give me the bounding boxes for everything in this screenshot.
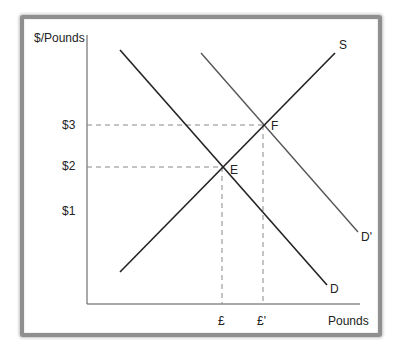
- demand-shifted-label: D': [361, 230, 372, 244]
- demand-curve-d-prime: [201, 53, 358, 232]
- demand-label: D: [330, 282, 339, 296]
- x-tick-pound: £: [218, 314, 225, 328]
- y-axis-label: $/Pounds: [34, 31, 85, 45]
- point-e-label: E: [230, 163, 238, 177]
- x-tick-pound-prime: £': [257, 314, 266, 328]
- x-axis-label: Pounds: [328, 314, 369, 328]
- y-tick-2: $2: [62, 159, 76, 173]
- supply-demand-chart: $/Pounds Pounds $3 $2 $1 £ £' S D D' E F: [0, 0, 401, 360]
- supply-label: S: [339, 38, 347, 52]
- y-tick-1: $1: [62, 204, 76, 218]
- point-f-label: F: [271, 119, 278, 133]
- y-tick-3: $3: [62, 118, 76, 132]
